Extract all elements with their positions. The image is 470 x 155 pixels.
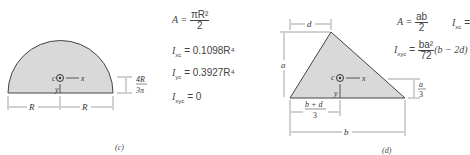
dim-left-r: R — [28, 102, 35, 112]
formula-sub: xc — [455, 24, 461, 30]
formula-lhs: A = — [172, 14, 187, 25]
dim-a3-num: a — [419, 80, 423, 89]
formula-rhs: = 0.1098R⁴ — [184, 45, 235, 56]
formula-ixc-c: Ixc = 0.1098R⁴ — [172, 45, 235, 58]
formula-rhs: = 0.3927R⁴ — [184, 67, 235, 78]
figure-d-triangle — [280, 19, 426, 136]
formula-iyc-c: Iyc = 0.3927R⁴ — [172, 67, 235, 80]
formula-sub: yc — [175, 74, 181, 80]
dim-b: b — [344, 127, 349, 137]
x-axis-label: x — [361, 74, 366, 83]
formula-ixyc-c: Ixyc = 0 — [172, 91, 201, 104]
formula-area-d: A = ab2 — [397, 12, 428, 33]
dim-bd-num: b + d — [305, 100, 323, 109]
formula-sub: xyc — [175, 98, 184, 104]
formula-sub: xyc — [397, 51, 406, 57]
formula-den: 72 — [418, 51, 434, 61]
y-axis-label: y — [333, 89, 338, 98]
figure-c-semicircle — [8, 41, 147, 111]
formula-den: 2 — [415, 23, 428, 33]
formula-lhs: A = — [397, 16, 412, 27]
dim-bd-den: 3 — [313, 111, 317, 120]
dim-a: a — [281, 60, 286, 70]
formula-ixyc-d: Ixyc = ba²72(b − 2d) — [394, 40, 468, 61]
dim-3pi-den: 3π — [135, 86, 145, 95]
formula-eq: = — [409, 44, 415, 55]
caption-c: (c) — [115, 143, 124, 152]
formula-area-c: A = πR²2 — [172, 10, 209, 31]
formula-rhs: = 0 — [187, 91, 201, 102]
formula-rhs: = — [464, 17, 470, 28]
caption-d: (d) — [382, 146, 392, 155]
x-axis-label: x — [80, 74, 85, 83]
formula-tail: (b − 2d) — [434, 44, 467, 55]
dim-right-r: R — [81, 102, 88, 112]
dim-d: d — [307, 19, 312, 29]
formula-sub: xc — [175, 52, 181, 58]
dim-a3-den: 3 — [419, 90, 423, 99]
centroid-label: c — [52, 74, 56, 83]
y-axis-label: y — [54, 85, 59, 94]
centroid-label: c — [331, 73, 335, 82]
dim-4r-num: 4R — [136, 75, 145, 84]
formula-ixc-d: Ixc = — [452, 17, 470, 30]
formula-den: 2 — [190, 21, 209, 31]
